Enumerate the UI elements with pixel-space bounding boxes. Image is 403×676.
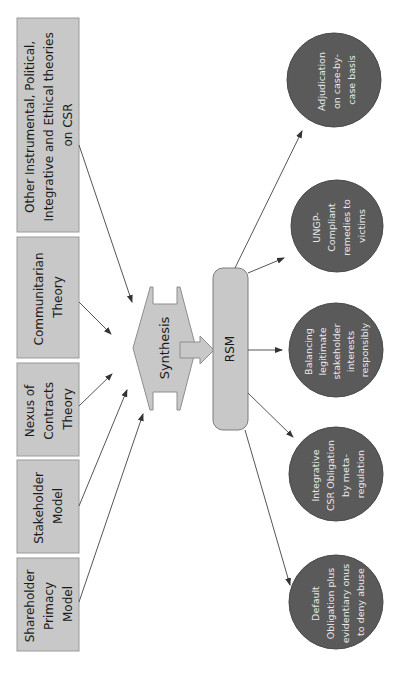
circle-text-line: legitimate bbox=[317, 327, 328, 375]
box-text-line: Integrative and Ethical theories bbox=[42, 32, 56, 221]
circle-text-line: by meta- bbox=[340, 454, 351, 497]
theory-box-shareholder: Shareholder Primacy Model bbox=[17, 558, 79, 651]
arrow-rsm-to-ungp bbox=[248, 258, 284, 273]
box-text-line: Theory bbox=[61, 388, 75, 431]
rsm-node: RSM bbox=[213, 268, 248, 430]
arrow-rsm-to-adjudication bbox=[235, 131, 302, 268]
arrow-shareholder-to-synthesis bbox=[79, 414, 143, 602]
circle-text-line: victims bbox=[356, 209, 367, 243]
box-text-line: Model bbox=[61, 586, 75, 622]
box-text-line: Model bbox=[51, 488, 65, 524]
box-text-line: Shareholder bbox=[23, 569, 37, 642]
box-text-line: Primacy bbox=[42, 582, 56, 630]
outcome-circle-adjudication: Adjudication on case-by- case basis bbox=[287, 33, 381, 127]
box-text-line: Contracts bbox=[42, 382, 56, 440]
outcome-circle-balancing: Balancing legitimate stakeholder interes… bbox=[289, 303, 383, 397]
rsm-label: RSM bbox=[223, 336, 237, 362]
circle-text-line: Compliant bbox=[326, 203, 337, 252]
svg-text:Adjudication on case-by-: Adjudication on case-by- case basis bbox=[316, 49, 357, 111]
outcome-circle-ungp: UNGP- Compliant remedies to victims bbox=[291, 180, 383, 272]
arrow-rsm-to-default bbox=[245, 430, 290, 585]
circle-text-line: CSR Obligation bbox=[325, 440, 336, 511]
circle-text-line: Default bbox=[310, 586, 321, 621]
arrow-other-to-synthesis bbox=[79, 145, 132, 302]
outcome-circle-integrative: Integrative CSR Obligation by meta- regu… bbox=[289, 427, 383, 521]
circle-text-line: evidentiary onus bbox=[340, 564, 351, 644]
box-text-line: on CSR bbox=[61, 103, 75, 146]
circle-text-line: case basis bbox=[346, 55, 357, 104]
arrow-rsm-to-integrative bbox=[248, 393, 293, 437]
circle-text-line: Integrative bbox=[310, 449, 321, 501]
box-text-line: Nexus of bbox=[23, 384, 37, 437]
box-text-line: Communitarian bbox=[32, 252, 46, 345]
circle-text-line: to deny abuse bbox=[355, 568, 366, 636]
circle-text-line: remedies to bbox=[341, 199, 352, 256]
arrow-stakeholder-to-synthesis bbox=[79, 390, 127, 506]
box-text-line: Stakeholder bbox=[32, 472, 46, 544]
box-text-line: Theory bbox=[51, 276, 65, 319]
theory-box-stakeholder: Stakeholder Model bbox=[17, 460, 79, 553]
circle-text-line: Obligation plus bbox=[325, 568, 336, 640]
circle-text-line: UNGP- bbox=[311, 212, 322, 242]
circle-text-line: on case-by- bbox=[331, 54, 342, 109]
synthesis-label: Synthesis bbox=[157, 316, 172, 379]
circle-text-line: Balancing bbox=[303, 328, 314, 375]
circle-text-line: regulation bbox=[355, 450, 366, 498]
svg-text:Balancing legitimate: Balancing legitimate stakeholder interes… bbox=[303, 321, 370, 380]
arrow-nexus-to-synthesis bbox=[79, 374, 112, 406]
circle-text-line: responsibly bbox=[359, 323, 370, 378]
theory-box-nexus: Nexus of Contracts Theory bbox=[17, 363, 79, 456]
circle-text-line: stakeholder bbox=[331, 324, 342, 380]
circle-text-line: Adjudication bbox=[316, 52, 327, 111]
circle-text-line: interests bbox=[345, 331, 356, 372]
theory-box-other: Other Instrumental, Political, Integrati… bbox=[17, 18, 79, 232]
theory-box-communitarian: Communitarian Theory bbox=[17, 237, 79, 358]
outcome-circle-default: Default Obligation plus evidentiary onus… bbox=[289, 555, 383, 649]
rsm-diagram: Other Instrumental, Political, Integrati… bbox=[0, 0, 403, 676]
box-text-line: Other Instrumental, Political, bbox=[23, 41, 37, 213]
arrow-communitarian-to-synthesis bbox=[79, 302, 111, 334]
